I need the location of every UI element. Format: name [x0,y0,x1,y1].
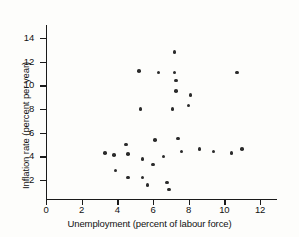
data-point [198,147,202,151]
data-point [157,71,161,75]
data-point [187,104,191,108]
data-point [171,107,175,111]
data-point [173,50,177,54]
data-point [103,151,107,155]
data-point [124,143,128,147]
data-point [141,157,145,161]
data-point [126,152,130,156]
data-point [139,107,143,111]
data-point [240,147,244,151]
data-point [137,69,141,73]
x-tick-label: 10 [214,204,234,215]
x-tick-label: 4 [107,204,127,215]
plot-area [46,25,277,199]
x-tick-label: 2 [72,204,92,215]
data-point [212,150,216,154]
data-point [173,71,177,75]
data-point [174,89,178,93]
data-point [112,153,116,157]
data-point [153,138,157,142]
x-tick-label: 12 [250,204,270,215]
data-point [141,176,145,180]
x-tick-label: 0 [36,204,56,215]
x-tick-label: 8 [179,204,199,215]
x-tick-label: 6 [143,204,163,215]
data-point [162,155,166,159]
data-point [146,183,150,187]
data-point [176,137,180,141]
data-point [174,79,178,83]
data-point [180,150,184,154]
data-point [151,163,155,167]
data-point [114,169,118,173]
x-axis-title: Unemployment (percent of labour force) [0,218,299,229]
data-point [189,93,193,97]
data-point [165,181,169,185]
data-point [235,71,239,75]
y-axis-title: Inflation rate (percent per year) [20,51,31,201]
data-point [230,151,234,155]
x-axis-line [46,199,277,200]
data-point [126,176,130,180]
scatter-chart-figure: 2468101214 024681012 Unemployment (perce… [0,0,299,237]
y-axis-title-wrapper: Inflation rate (percent per year) [12,20,26,190]
data-point [167,188,171,192]
